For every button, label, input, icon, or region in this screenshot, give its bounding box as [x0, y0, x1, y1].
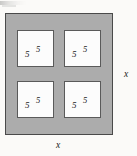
- inner-square-bottom-right: 5 5: [64, 81, 101, 118]
- side-length-label: 5: [36, 96, 40, 105]
- side-length-label: 5: [36, 45, 40, 54]
- inner-square-bottom-left: 5 5: [17, 81, 54, 118]
- side-length-label: 5: [25, 50, 30, 59]
- scan-artifact-secondary: [2, 5, 16, 7]
- side-length-label: 5: [72, 101, 77, 110]
- side-length-label: 5: [83, 45, 87, 54]
- inner-square-grid: 5 5 5 5 5 5 5 5: [17, 30, 101, 118]
- side-length-label: 5: [25, 101, 30, 110]
- side-length-label: 5: [72, 50, 77, 59]
- inner-square-top-right: 5 5: [64, 30, 101, 67]
- geometry-figure: 5 5 5 5 5 5 5 5 x x: [0, 0, 137, 156]
- side-length-label: 5: [83, 96, 87, 105]
- outer-square-bottom-dimension-label: x: [56, 141, 60, 151]
- outer-square-right-dimension-label: x: [124, 70, 128, 80]
- inner-square-top-left: 5 5: [17, 30, 54, 67]
